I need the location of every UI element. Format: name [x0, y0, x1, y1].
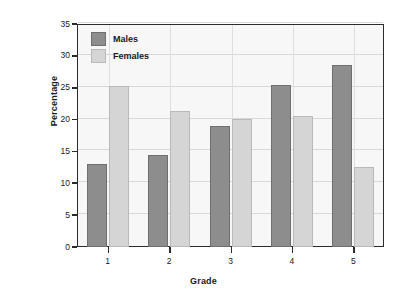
y-tick-label: 0 [65, 242, 70, 252]
y-tick-mark [72, 87, 77, 89]
bar-males-grade-1 [87, 164, 107, 247]
y-tick-label: 10 [61, 178, 70, 188]
x-tick-mark [169, 247, 171, 253]
y-tick-mark [72, 119, 77, 121]
y-tick-label: 35 [61, 19, 70, 29]
y-tick-mark [72, 23, 77, 25]
y-tick-label: 15 [61, 146, 70, 156]
x-tick-label: 3 [221, 256, 241, 266]
bar-chart-figure: Percentage 0510152025303512345 Grade Mal… [0, 0, 407, 300]
x-tick-mark [353, 247, 355, 253]
bar-females-grade-5 [354, 167, 374, 247]
y-gridline [78, 22, 383, 23]
legend-item-males[interactable]: Males [91, 30, 149, 47]
bar-males-grade-4 [271, 85, 291, 247]
y-axis-title: Percentage [49, 61, 59, 141]
bar-females-grade-4 [293, 116, 313, 247]
legend-label: Males [113, 34, 138, 44]
legend-swatch-icon [91, 32, 106, 46]
x-tick-mark [108, 247, 110, 253]
y-tick-mark [72, 182, 77, 184]
y-tick-label: 5 [65, 210, 70, 220]
x-axis-title: Grade [0, 276, 407, 286]
bar-females-grade-3 [232, 119, 252, 247]
x-tick-mark [292, 247, 294, 253]
y-tick-label: 30 [61, 50, 70, 60]
bar-females-grade-2 [170, 111, 190, 247]
x-tick-label: 5 [343, 256, 363, 266]
x-tick-label: 2 [159, 256, 179, 266]
y-tick-mark [72, 55, 77, 57]
legend-label: Females [113, 51, 149, 61]
y-tick-mark [72, 246, 77, 248]
bar-females-grade-1 [109, 86, 129, 247]
y-tick-label: 25 [61, 82, 70, 92]
legend-swatch-icon [91, 49, 106, 63]
bar-males-grade-2 [148, 155, 168, 247]
x-tick-label: 4 [282, 256, 302, 266]
y-tick-mark [72, 214, 77, 216]
y-tick-label: 20 [61, 114, 70, 124]
legend-item-females[interactable]: Females [91, 47, 149, 64]
y-tick-mark [72, 151, 77, 153]
x-tick-label: 1 [98, 256, 118, 266]
chart-legend: MalesFemales [91, 30, 149, 64]
bar-males-grade-5 [332, 65, 352, 247]
bar-males-grade-3 [210, 126, 230, 247]
x-tick-mark [231, 247, 233, 253]
